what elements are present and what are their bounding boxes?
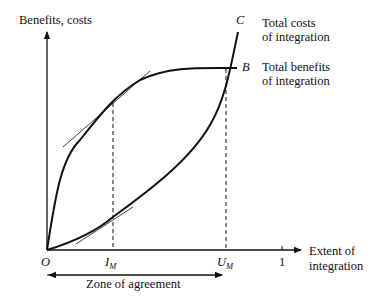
origin-label: O (41, 255, 50, 270)
benefits-tangent-line (63, 71, 150, 147)
im-label: IM (105, 255, 116, 274)
curve-b-letter: B (242, 60, 250, 75)
curve-c-label-line1: Total costs (262, 16, 316, 31)
tick-one-label: 1 (279, 255, 285, 270)
zone-of-agreement-label: Zone of agreement (86, 277, 180, 292)
curve-b-label-line2: of integration (262, 74, 330, 89)
curve-b-label-line1: Total benefits (262, 60, 330, 75)
curve-c-letter: C (236, 13, 244, 28)
curve-c-label-line2: of integration (262, 30, 330, 45)
y-axis-label: Benefits, costs (19, 13, 92, 28)
total-costs-curve (47, 32, 238, 250)
total-benefits-curve (47, 68, 237, 250)
x-axis-label-line1: Extent of (309, 244, 355, 259)
um-label: UM (217, 255, 233, 274)
costs-tangent-line (76, 207, 133, 244)
x-axis-label-line2: integration (309, 259, 363, 274)
